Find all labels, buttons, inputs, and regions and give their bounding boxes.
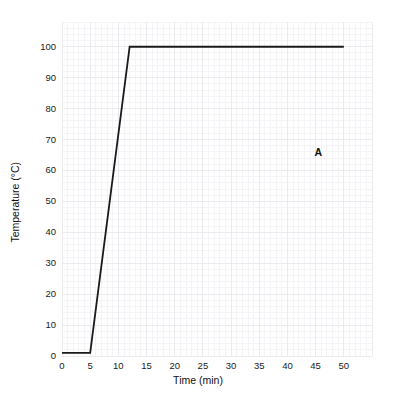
y-tick-50: 50 xyxy=(45,196,56,206)
y-tick-30: 30 xyxy=(45,258,56,268)
x-tick-0: 0 xyxy=(49,361,75,371)
y-tick-100: 100 xyxy=(40,42,56,52)
x-axis-title: Time (min) xyxy=(0,375,396,386)
x-tick-15: 15 xyxy=(134,361,160,371)
x-tick-50: 50 xyxy=(331,361,357,371)
y-tick-10: 10 xyxy=(45,320,56,330)
x-tick-40: 40 xyxy=(274,361,300,371)
y-tick-80: 80 xyxy=(45,104,56,114)
x-tick-20: 20 xyxy=(162,361,188,371)
y-tick-90: 90 xyxy=(45,73,56,83)
y-tick-40: 40 xyxy=(45,227,56,237)
plot-canvas xyxy=(0,0,396,404)
x-tick-5: 5 xyxy=(77,361,103,371)
x-tick-35: 35 xyxy=(246,361,272,371)
y-tick-60: 60 xyxy=(45,165,56,175)
series-label-a: A xyxy=(314,147,322,158)
x-tick-25: 25 xyxy=(190,361,216,371)
y-tick-70: 70 xyxy=(45,135,56,145)
x-tick-45: 45 xyxy=(303,361,329,371)
x-tick-30: 30 xyxy=(218,361,244,371)
y-axis-title: Temperature (°C) xyxy=(8,0,22,404)
chart-figure: 0102030405060708090100 05101520253035404… xyxy=(0,0,396,404)
y-tick-0: 0 xyxy=(51,351,56,361)
y-axis-title-text: Temperature (°C) xyxy=(10,162,21,243)
x-tick-10: 10 xyxy=(105,361,131,371)
y-tick-20: 20 xyxy=(45,289,56,299)
